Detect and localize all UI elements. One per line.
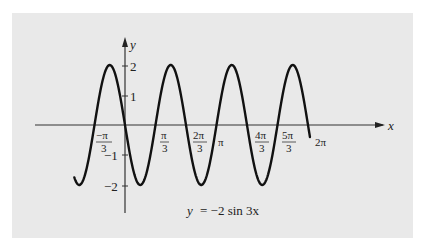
- x-tick-2pi: 2π: [315, 136, 327, 148]
- x-tick-2pi-3: 2π 3: [193, 129, 207, 154]
- sine-chart: x y 2 1 −1 −2 −π 3 π 3 2π 3 π 4π 3 5π 3 …: [0, 0, 425, 248]
- svg-text:2π: 2π: [193, 129, 205, 141]
- x-axis-arrow-icon: [375, 122, 385, 128]
- svg-text:3: 3: [259, 142, 265, 154]
- svg-text:π: π: [161, 129, 167, 141]
- svg-text:3: 3: [286, 142, 292, 154]
- x-tick-5pi-3: 5π 3: [282, 129, 296, 154]
- x-tick-pi-3: π 3: [160, 129, 169, 154]
- y-tick-2: 2: [130, 59, 137, 74]
- x-tick-pi: π: [218, 136, 224, 148]
- x-tick-4pi-3: 4π 3: [255, 129, 269, 154]
- x-axis-label: x: [387, 118, 394, 133]
- svg-text:3: 3: [101, 142, 107, 154]
- y-tick-neg2: −2: [104, 179, 118, 194]
- y-tick-1: 1: [130, 89, 137, 104]
- svg-text:5π: 5π: [282, 129, 294, 141]
- svg-text:−π: −π: [96, 129, 108, 141]
- svg-text:3: 3: [162, 142, 168, 154]
- y-axis-label: y: [128, 37, 136, 52]
- svg-text:4π: 4π: [255, 129, 267, 141]
- y-axis-arrow-icon: [122, 37, 128, 47]
- svg-text:3: 3: [197, 142, 203, 154]
- equation-label: y = −2 sin 3x: [185, 203, 260, 218]
